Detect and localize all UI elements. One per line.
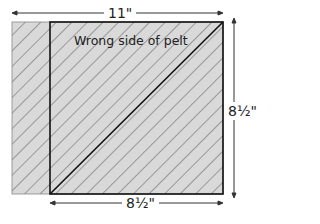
height-label: 8½" [228, 102, 257, 120]
wrong-side-label: Wrong side of pelt [74, 34, 188, 48]
square-width-label: 8½" [122, 196, 159, 210]
width-label: 11" [104, 6, 136, 20]
